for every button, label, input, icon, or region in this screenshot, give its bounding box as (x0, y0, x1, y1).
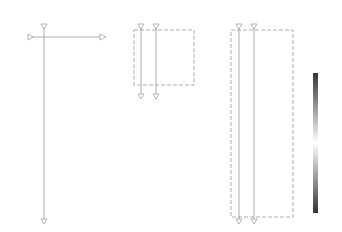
z1-arrow-bottom-icon (236, 219, 242, 224)
colorbar (313, 73, 318, 213)
z1-arrow-top-icon (236, 24, 242, 29)
v1-arrow-bottom-icon (138, 94, 144, 99)
z2-arrow-top-icon (251, 24, 257, 29)
v1-arrow-top-icon (138, 24, 144, 29)
matrix-v-bounds (134, 30, 194, 85)
z2-arrow-bottom-icon (251, 219, 257, 224)
v2-arrow-bottom-icon (153, 94, 159, 99)
column-arrow-bottom-icon (41, 219, 47, 224)
row-arrow-right-icon (100, 34, 106, 40)
diagram-canvas (0, 0, 342, 232)
matrix-z-bounds (231, 30, 293, 217)
row-arrow-left-icon (28, 34, 33, 40)
v2-arrow-top-icon (153, 24, 159, 29)
column-arrow-top-icon (41, 24, 47, 29)
